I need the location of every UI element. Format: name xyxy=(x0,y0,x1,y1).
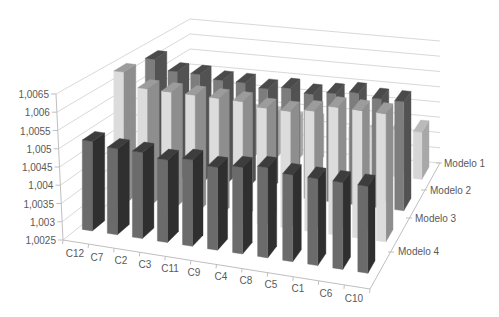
bar-side-face xyxy=(117,140,129,235)
category-axis-tick xyxy=(216,265,217,269)
category-label: C12 xyxy=(66,248,85,259)
category-axis-tick xyxy=(242,269,243,273)
bar-front-face xyxy=(283,174,293,262)
bar-side-face xyxy=(368,175,375,273)
bar-side-face xyxy=(386,104,393,242)
bar-side-face xyxy=(343,172,351,270)
bar-side-face xyxy=(293,165,302,262)
bar-front-face xyxy=(107,147,117,235)
bar xyxy=(333,170,351,269)
3d-column-chart: 1,0025 1,003 1,0035 1,004 1,0045 1,005 1… xyxy=(0,0,499,317)
category-axis-tick xyxy=(318,281,319,285)
category-label: C8 xyxy=(240,275,253,286)
value-axis-label: 1,0065 xyxy=(18,89,49,100)
bar-front-face xyxy=(132,151,142,239)
category-label: C5 xyxy=(265,279,278,290)
bar-side-face xyxy=(168,151,179,243)
bar xyxy=(107,139,129,235)
category-axis-tick xyxy=(267,273,268,277)
bar xyxy=(283,163,302,261)
bar-side-face xyxy=(193,151,204,247)
plot-bars xyxy=(82,51,429,274)
bar xyxy=(258,156,277,258)
category-axis-tick xyxy=(88,244,89,248)
category-axis-tick xyxy=(293,277,294,281)
category-axis-tick xyxy=(344,285,345,289)
category-label: C4 xyxy=(215,271,228,282)
value-axis-label: 1,005 xyxy=(27,144,52,155)
bar-front-face xyxy=(183,159,193,247)
value-axis-label: 1,0035 xyxy=(23,199,54,210)
category-axis-tick xyxy=(63,240,64,244)
bar xyxy=(157,149,178,242)
bar xyxy=(132,142,154,239)
depth-label-modelo-1: Modelo 1 xyxy=(444,158,486,169)
value-axis-label: 1,0055 xyxy=(20,126,51,137)
bar-front-face xyxy=(413,132,422,180)
value-axis-label: 1,0025 xyxy=(25,235,56,246)
bar-front-face xyxy=(233,166,243,254)
category-label: C3 xyxy=(139,259,152,270)
category-label: C6 xyxy=(320,288,333,299)
bar xyxy=(208,156,228,250)
category-axis-tick xyxy=(114,248,115,252)
category-axis-tick xyxy=(370,289,371,293)
category-label: C2 xyxy=(115,255,128,266)
bar-side-face xyxy=(268,158,277,258)
value-axis-label: 1,006 xyxy=(25,107,50,118)
category-label: C9 xyxy=(188,267,201,278)
bar xyxy=(183,149,204,246)
bar-front-face xyxy=(208,166,218,250)
bar xyxy=(233,156,253,254)
value-axis-labels: 1,0025 1,003 1,0035 1,004 1,0045 1,005 1… xyxy=(18,89,56,246)
bar-front-face xyxy=(333,181,343,269)
bar xyxy=(358,174,375,273)
depth-label-modelo-2: Modelo 2 xyxy=(430,185,472,196)
bar xyxy=(395,90,411,210)
category-label: C11 xyxy=(161,263,179,274)
bar-front-face xyxy=(258,166,268,258)
bar-front-face xyxy=(157,158,167,242)
bar-front-face xyxy=(82,140,92,231)
value-axis-label: 1,003 xyxy=(30,217,55,228)
category-label: C7 xyxy=(91,252,104,263)
bar-front-face xyxy=(376,113,386,242)
depth-label-modelo-3: Modelo 3 xyxy=(415,213,457,224)
bar-front-face xyxy=(308,177,318,265)
bar xyxy=(82,131,104,231)
category-label: C10 xyxy=(345,293,364,304)
value-axis-label: 1,0045 xyxy=(22,162,53,173)
chart-area: 1,0025 1,003 1,0035 1,004 1,0045 1,005 1… xyxy=(0,0,499,317)
depth-label-modelo-4: Modelo 4 xyxy=(398,246,440,257)
category-label: C1 xyxy=(292,283,305,294)
bar xyxy=(413,120,429,179)
bar-side-face xyxy=(404,91,411,210)
value-axis-label: 1,004 xyxy=(28,180,53,191)
bar-side-face xyxy=(142,144,154,239)
bar-side-face xyxy=(243,158,253,254)
bar xyxy=(376,103,393,242)
bar-front-face xyxy=(395,101,404,211)
bar xyxy=(308,167,326,266)
bar-side-face xyxy=(218,158,228,251)
category-axis-tick xyxy=(139,252,140,256)
bar-side-face xyxy=(318,168,326,265)
bar-side-face xyxy=(92,133,104,231)
category-axis-tick xyxy=(165,256,166,260)
bar-front-face xyxy=(358,185,368,273)
category-axis-tick xyxy=(190,260,191,264)
